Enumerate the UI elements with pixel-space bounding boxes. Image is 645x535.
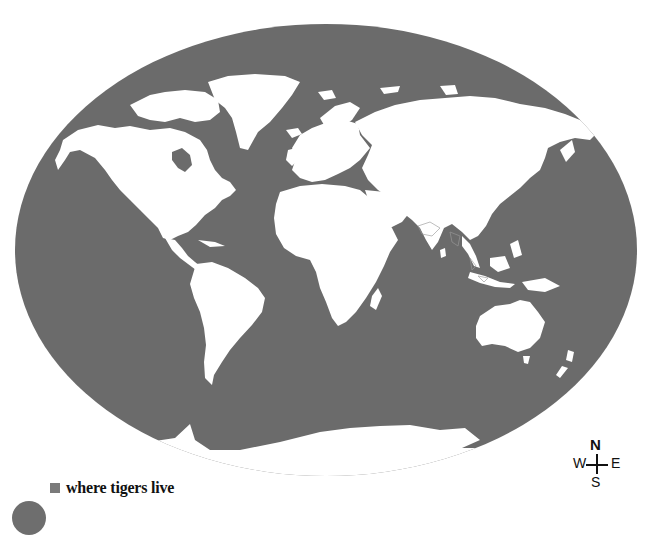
tiger-habitat-swatch [50,483,60,493]
compass-east: E [611,455,620,471]
page-marker-circle [12,501,46,535]
antarctica [0,424,645,513]
compass-rose: N W E S [573,436,623,496]
compass-north: N [590,436,601,453]
compass-west: W [573,455,586,471]
legend-label: where tigers live [66,479,174,497]
compass-south: S [591,474,600,490]
legend: where tigers live [50,479,174,497]
compass-vertical-bar [596,454,598,474]
